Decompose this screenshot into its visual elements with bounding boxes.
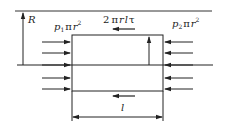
fluid-element-diagram: R p1πr2 2πrlτ p2πr2 l (0, 0, 227, 130)
left-force-sub: 1 (60, 26, 64, 33)
left-force-pi: π (65, 21, 72, 32)
radius-label: R (27, 14, 36, 25)
length-label: l (121, 102, 124, 113)
shear-tau: τ (129, 14, 135, 25)
right-force-sup: 2 (196, 16, 200, 23)
right-force-sub: 2 (178, 23, 182, 30)
shear-l: l (125, 14, 128, 25)
right-force-label: p2πr2 (172, 16, 200, 30)
shear-coef: 2 (103, 14, 109, 25)
left-pressure-arrows (42, 42, 70, 89)
right-force-pi: π (183, 18, 190, 29)
shear-pi: π (111, 14, 118, 25)
shear-force-label: 2πrlτ (103, 14, 135, 25)
right-pressure-arrows (165, 42, 193, 89)
left-force-label: p1πr2 (54, 19, 82, 33)
left-force-sup: 2 (78, 19, 82, 26)
